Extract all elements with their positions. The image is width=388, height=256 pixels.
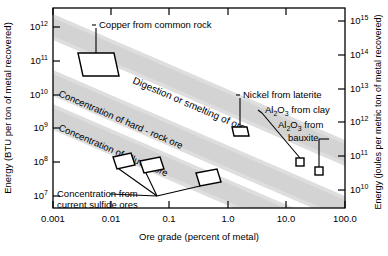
annotation-al2o3-from-bauxite-line2: bauxite	[288, 132, 319, 143]
y-axis-label-left: Energy (BTU per ton of metal recovered)	[2, 22, 13, 194]
y-axis-label-right: Energy (joules per metric ton of metal r…	[373, 14, 383, 209]
x-tick-label: 1.0	[221, 213, 234, 224]
x-tick-label: 0.001	[41, 213, 65, 224]
chart-figure: 0.001 0.01 0.1 1.0 10.0 100.0 Ore grade …	[0, 0, 388, 256]
annotation-sulfide-line1: Concentration from	[57, 188, 138, 199]
x-tick-label: 0.1	[162, 213, 175, 224]
annotation-sulfide-line2: current sulfide ores	[57, 199, 138, 210]
x-tick-label: 10.0	[277, 213, 296, 224]
marker-al2o3-bauxite-square[interactable]	[315, 167, 323, 175]
annotation-nickel-from-laterite: Nickel from laterite	[243, 89, 322, 100]
chart-svg: 0.001 0.01 0.1 1.0 10.0 100.0 Ore grade …	[0, 0, 388, 256]
x-axis-label: Ore grade (percent of metal)	[139, 231, 259, 242]
marker-nickel-laterite-box[interactable]	[232, 127, 249, 136]
x-tick-label: 100.0	[333, 213, 357, 224]
x-tick-label: 0.01	[102, 213, 121, 224]
marker-al2o3-clay-square[interactable]	[296, 158, 304, 166]
marker-copper-common-rock-box[interactable]	[78, 53, 119, 76]
annotation-copper-from-common-rock: Copper from common rock	[99, 19, 212, 30]
